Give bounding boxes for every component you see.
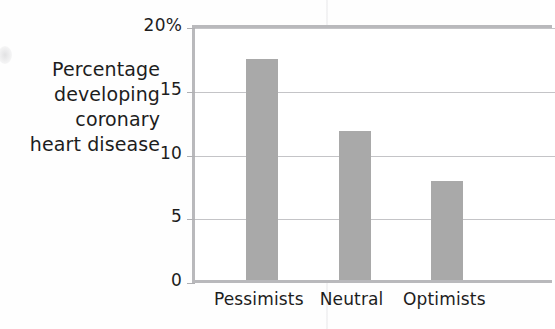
bar-neutral	[339, 131, 371, 280]
y-tick-0	[187, 283, 195, 284]
y-tick-5	[187, 219, 195, 220]
x-axis-tick-labels: PessimistsNeutralOptimists	[0, 289, 540, 317]
plot-area	[192, 25, 552, 283]
y-axis-tick-labels: 05101520%	[120, 0, 182, 329]
x-tick-label-optimists: Optimists	[403, 289, 486, 309]
bar-optimists	[431, 181, 463, 280]
y-tick-20	[187, 28, 195, 29]
bar-pessimists	[246, 59, 278, 280]
x-tick-label-pessimists: Pessimists	[214, 289, 304, 309]
y-tick-label-10: 10	[160, 143, 182, 163]
y-tick-label-5: 5	[171, 206, 182, 226]
y-tick-label-0: 0	[171, 270, 182, 290]
x-tick-label-neutral: Neutral	[320, 289, 384, 309]
y-tick-10	[187, 156, 195, 157]
gridline-20	[195, 28, 555, 29]
y-tick-label-15: 15	[160, 79, 182, 99]
y-tick-label-20: 20%	[144, 15, 182, 35]
y-tick-15	[187, 92, 195, 93]
